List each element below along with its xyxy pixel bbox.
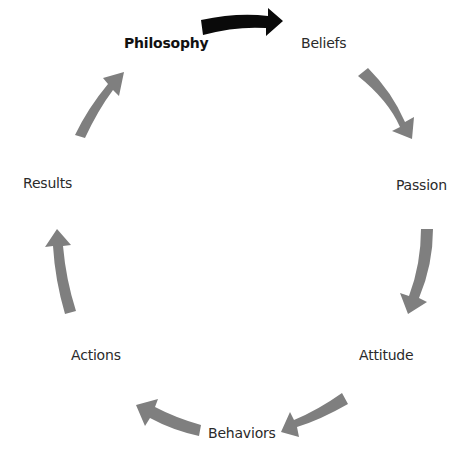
arrow-results-to-philosophy	[75, 72, 124, 138]
node-actions: Actions	[71, 347, 121, 363]
arrows-layer	[0, 0, 469, 475]
node-attitude: Attitude	[359, 347, 413, 363]
node-passion: Passion	[396, 177, 447, 193]
node-behaviors: Behaviors	[208, 425, 276, 441]
arrow-behaviors-to-actions	[136, 399, 201, 436]
arrow-beliefs-to-passion	[358, 68, 414, 139]
arrow-attitude-to-behaviors	[281, 393, 348, 437]
node-beliefs: Beliefs	[301, 35, 346, 51]
node-philosophy: Philosophy	[124, 35, 209, 51]
arrow-philosophy-to-beliefs	[201, 8, 283, 36]
cycle-diagram: Philosophy Beliefs Passion Attitude Beha…	[0, 0, 469, 475]
node-results: Results	[23, 175, 72, 191]
arrow-actions-to-results	[45, 229, 76, 314]
arrow-passion-to-attitude	[400, 229, 433, 314]
